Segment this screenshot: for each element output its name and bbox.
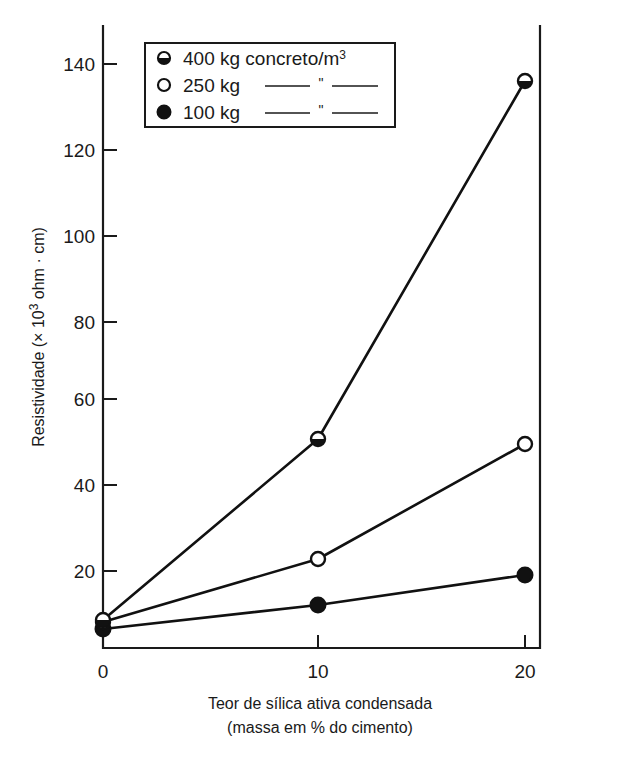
x-axis-tick-labels: 0 10 20 — [98, 661, 536, 682]
chart-legend: 400 kg concreto/m3 250 kg " 100 kg " — [145, 43, 395, 127]
x-axis-ticks — [103, 635, 525, 648]
datapoint-100kg-x20 — [518, 568, 533, 583]
y-ticklabel-2: 60 — [74, 389, 95, 410]
legend-marker-250kg — [158, 79, 170, 91]
legend-ditto-250: " — [319, 75, 324, 91]
datapoint-100kg-x10 — [311, 598, 326, 613]
figure-container: 140 120 100 80 60 40 20 0 10 20 Teor de … — [0, 0, 644, 773]
legend-label-400kg: 400 kg concreto/m3 — [183, 48, 346, 69]
legend-label-100kg: 100 kg — [183, 102, 240, 123]
x-axis-title-line2: (massa em % do cimento) — [227, 719, 413, 736]
series-markers-100kg — [96, 568, 533, 637]
y-axis-ticks — [103, 64, 117, 571]
y-ticklabel-0: 20 — [74, 561, 95, 582]
x-ticklabel-2: 20 — [514, 661, 535, 682]
datapoint-250kg-x10 — [311, 552, 325, 566]
x-ticklabel-0: 0 — [98, 661, 109, 682]
x-axis-title-line1: Teor de sílica ativa condensada — [208, 695, 432, 712]
series-line-250kg — [103, 444, 525, 622]
y-ticklabel-3: 80 — [74, 312, 95, 333]
y-axis-title-prefix: Resistividade (× 10 — [30, 310, 47, 447]
x-axis-title: Teor de sílica ativa condensada (massa e… — [208, 695, 432, 736]
legend-marker-100kg — [158, 106, 171, 119]
y-axis-tick-labels: 140 120 100 80 60 40 20 — [63, 54, 95, 582]
svg-text:Resistividade (× 103 ohm · cm): Resistividade (× 103 ohm · cm) — [27, 227, 47, 447]
y-ticklabel-6: 140 — [63, 54, 95, 75]
y-ticklabel-1: 40 — [74, 475, 95, 496]
y-ticklabel-4: 100 — [63, 226, 95, 247]
y-axis-title-suffix: ohm · cm) — [30, 227, 47, 303]
series-markers-400kg — [96, 74, 532, 627]
resistivity-line-chart: 140 120 100 80 60 40 20 0 10 20 Teor de … — [0, 0, 644, 773]
y-axis-title: Resistividade (× 103 ohm · cm) — [27, 227, 47, 447]
x-ticklabel-1: 10 — [307, 661, 328, 682]
y-ticklabel-5: 120 — [63, 140, 95, 161]
series-line-400kg — [103, 81, 525, 620]
legend-label-250kg: 250 kg — [183, 75, 240, 96]
legend-ditto-100: " — [319, 102, 324, 118]
datapoint-250kg-x20 — [518, 437, 532, 451]
